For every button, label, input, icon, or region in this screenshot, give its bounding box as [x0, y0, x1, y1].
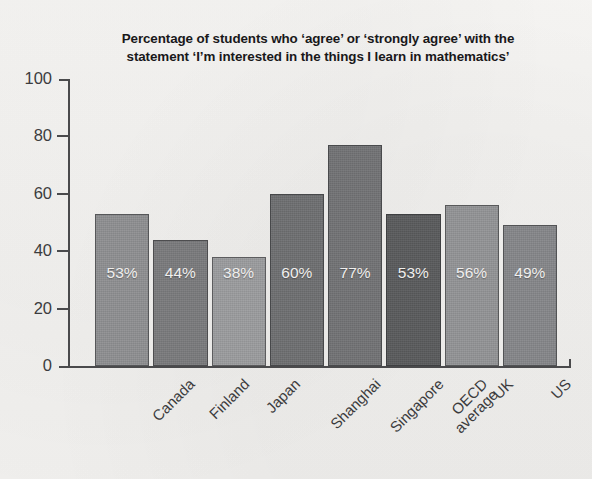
y-tick-40: [57, 250, 68, 252]
x-axis-label-7: US: [548, 376, 574, 402]
bar-oecd-average[interactable]: [386, 214, 440, 366]
bar-us[interactable]: [503, 225, 557, 366]
x-axis-label-line: US: [548, 376, 574, 402]
bar-uk[interactable]: [445, 205, 499, 366]
bar-texture: [154, 241, 206, 365]
bar-finland[interactable]: [153, 240, 207, 366]
bar-texture: [96, 215, 148, 365]
y-tick-100: [59, 79, 68, 81]
x-axis-label-line: Shanghai: [327, 376, 383, 432]
x-axis-label-3: Shanghai: [327, 376, 383, 432]
y-tick-60: [57, 193, 68, 195]
bar-texture: [387, 215, 439, 365]
x-axis-label-line: Japan: [263, 376, 303, 416]
bar-texture: [446, 206, 498, 365]
y-tick-20: [57, 308, 68, 310]
x-axis-end-cap: [569, 359, 571, 368]
y-tick-label-0: 0: [8, 357, 52, 373]
bar-value-label-2: 38%: [212, 264, 266, 282]
y-tick-label-20: 20: [8, 300, 52, 316]
x-axis-label-2: Japan: [263, 376, 303, 416]
bar-chart: Percentage of students who ‘agree’ or ‘s…: [0, 0, 592, 479]
bar-value-label-7: 49%: [503, 264, 557, 282]
bar-value-label-6: 56%: [445, 264, 499, 282]
x-axis-label-1: Finland: [207, 376, 253, 422]
bar-texture: [504, 226, 556, 365]
bar-canada[interactable]: [95, 214, 149, 366]
x-axis-label-5: OECDaverage: [441, 376, 501, 436]
bar-value-label-5: 53%: [386, 264, 440, 282]
y-tick-label-60: 60: [8, 185, 52, 201]
bar-texture: [329, 146, 381, 365]
plot-area: 02040608010053%Canada44%Finland38%Japan6…: [0, 0, 592, 479]
x-axis-label-line: Finland: [207, 376, 253, 422]
y-tick-label-100: 100: [8, 70, 52, 86]
x-axis-label-line: Singapore: [387, 376, 447, 436]
bar-value-label-3: 60%: [270, 264, 324, 282]
bar-singapore[interactable]: [328, 145, 382, 366]
y-tick-label-80: 80: [8, 127, 52, 143]
x-axis-line: [68, 366, 571, 368]
x-axis-label-0: Canada: [149, 376, 197, 424]
y-tick-0: [59, 366, 68, 368]
bar-value-label-1: 44%: [153, 264, 207, 282]
y-tick-80: [57, 135, 68, 137]
x-axis-label-line: Canada: [149, 376, 197, 424]
bar-value-label-4: 77%: [328, 264, 382, 282]
y-tick-label-40: 40: [8, 242, 52, 258]
x-axis-label-4: Singapore: [387, 376, 447, 436]
bar-value-label-0: 53%: [95, 264, 149, 282]
y-axis-line: [68, 79, 70, 368]
